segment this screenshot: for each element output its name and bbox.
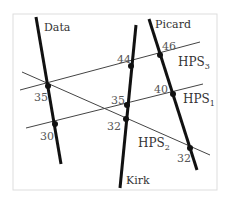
hps-diagram: HPS3HPS1HPS2DataKirkPicard35304435324640… (0, 0, 228, 199)
intersection-dot (170, 91, 176, 97)
intersection-dot (45, 83, 51, 89)
intersection-value: 40 (154, 83, 168, 96)
person-label-data: Data (44, 21, 71, 34)
intersection-value: 35 (34, 91, 48, 104)
intersection-value: 30 (40, 130, 54, 143)
intersection-dot (52, 121, 58, 127)
intersection-dot (123, 116, 129, 122)
person-label-kirk: Kirk (126, 174, 150, 187)
intersection-value: 46 (162, 40, 176, 53)
intersection-value: 32 (177, 152, 191, 165)
diagram-canvas: HPS3HPS1HPS2DataKirkPicard35304435324640… (0, 0, 228, 199)
intersection-value: 35 (111, 94, 125, 107)
person-label-picard: Picard (155, 18, 191, 31)
intersection-value: 32 (107, 120, 121, 133)
intersection-value: 44 (117, 53, 131, 66)
intersection-dot (187, 145, 193, 151)
